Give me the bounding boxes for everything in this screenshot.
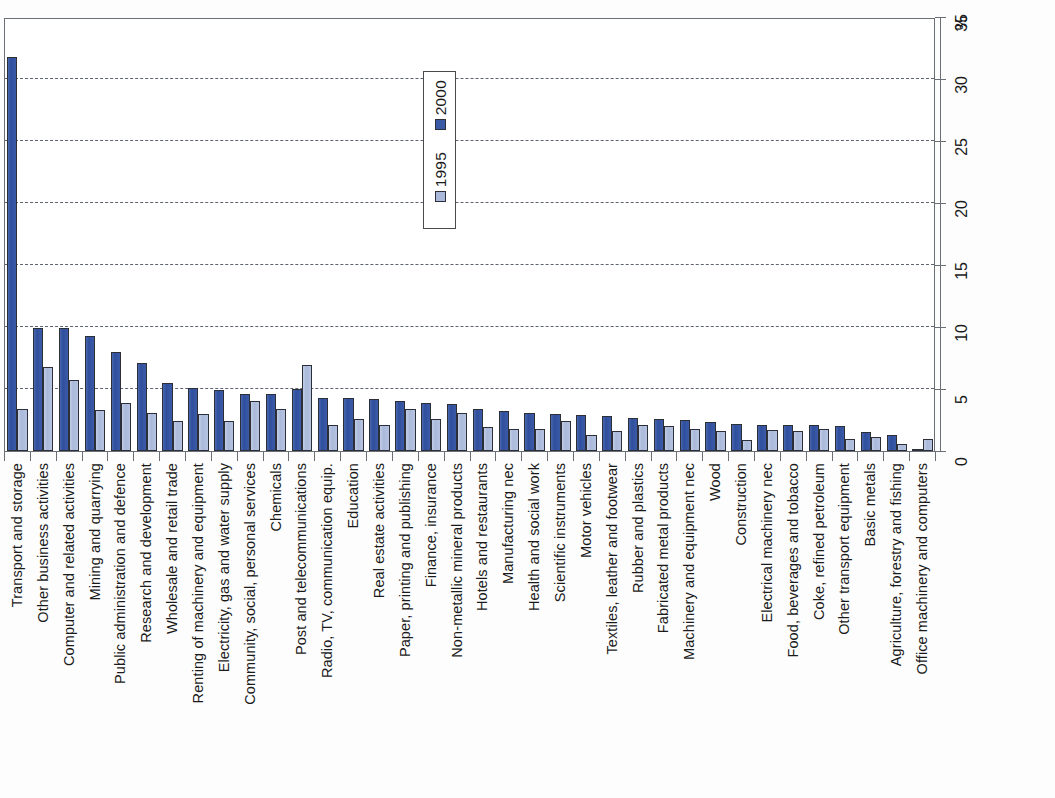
bar-1995 bbox=[95, 410, 105, 451]
bar-1995 bbox=[690, 429, 700, 451]
category-tick bbox=[107, 452, 108, 461]
bar-2000 bbox=[59, 328, 69, 451]
category-tick bbox=[935, 452, 936, 461]
bar-group bbox=[576, 19, 596, 451]
category-tick bbox=[728, 452, 729, 461]
category-label: Mining and quarrying bbox=[88, 463, 103, 600]
category-tick bbox=[806, 452, 807, 461]
bar-group bbox=[550, 19, 570, 451]
chart-page: 2000 1995 05101520253035 % Transport and… bbox=[0, 0, 1055, 798]
category-label: Finance, insurance bbox=[424, 463, 439, 587]
bar-2000 bbox=[499, 411, 509, 451]
bar-1995 bbox=[819, 429, 829, 451]
bar-group bbox=[473, 19, 493, 451]
category-label: Scientific instruments bbox=[553, 463, 568, 602]
category-tick bbox=[495, 452, 496, 461]
category-label: Transport and storage bbox=[10, 463, 25, 607]
value-tick-0 bbox=[935, 451, 946, 452]
category-tick bbox=[263, 452, 264, 461]
value-tick-label: 15 bbox=[954, 262, 970, 280]
category-tick bbox=[211, 452, 212, 461]
category-label: Machinery and equipment nec bbox=[682, 463, 697, 660]
category-label: Wood bbox=[708, 463, 723, 501]
bar-group bbox=[705, 19, 725, 451]
bar-1995 bbox=[586, 435, 596, 451]
category-label: Motor vehicles bbox=[579, 463, 594, 558]
bar-1995 bbox=[638, 425, 648, 451]
bar-1995 bbox=[767, 430, 777, 451]
category-label: Post and telecommunications bbox=[294, 463, 309, 655]
bar-2000 bbox=[343, 398, 353, 451]
bar-group bbox=[7, 19, 27, 451]
bar-2000 bbox=[473, 409, 483, 451]
bar-1995 bbox=[69, 380, 79, 451]
category-tick bbox=[185, 452, 186, 461]
category-label: Basic metals bbox=[863, 463, 878, 546]
bar-group bbox=[912, 19, 932, 451]
category-axis-labels: Transport and storageOther business acti… bbox=[4, 463, 935, 793]
bar-2000 bbox=[111, 352, 121, 451]
bar-group bbox=[369, 19, 389, 451]
value-axis-unit-label: % bbox=[954, 16, 970, 30]
bar-group bbox=[266, 19, 286, 451]
bar-1995 bbox=[845, 439, 855, 451]
value-axis: 05101520253035 bbox=[940, 18, 941, 452]
category-label: Fabricated metal products bbox=[656, 463, 671, 633]
bar-2000 bbox=[628, 418, 638, 451]
bar-1995 bbox=[147, 413, 157, 451]
bar-1995 bbox=[121, 403, 131, 451]
category-tick bbox=[857, 452, 858, 461]
category-tick bbox=[702, 452, 703, 461]
category-tick bbox=[444, 452, 445, 461]
category-tick bbox=[418, 452, 419, 461]
bar-1995 bbox=[716, 431, 726, 451]
category-tick bbox=[754, 452, 755, 461]
bar-2000 bbox=[266, 394, 276, 451]
category-tick bbox=[30, 452, 31, 461]
bar-2000 bbox=[887, 435, 897, 451]
category-label: Textiles, leather and footwear bbox=[605, 463, 620, 655]
bar-1995 bbox=[664, 426, 674, 451]
value-tick-30 bbox=[935, 79, 946, 80]
category-label: Hotels and restaurants bbox=[475, 463, 490, 611]
category-tick bbox=[237, 452, 238, 461]
category-tick bbox=[547, 452, 548, 461]
category-tick bbox=[909, 452, 910, 461]
category-label: Community, social, personal services bbox=[243, 463, 258, 705]
bar-2000 bbox=[680, 420, 690, 451]
bar-2000 bbox=[7, 57, 17, 451]
category-label: Research and development bbox=[139, 463, 154, 643]
legend-swatch-1995 bbox=[435, 191, 446, 202]
category-label: Agriculture, forestry and fishing bbox=[889, 463, 904, 666]
legend-entry-1995: 1995 bbox=[424, 152, 457, 202]
bar-1995 bbox=[612, 431, 622, 451]
legend-label-2000: 2000 bbox=[433, 80, 449, 115]
bar-group bbox=[188, 19, 208, 451]
bar-group bbox=[861, 19, 881, 451]
value-tick-20 bbox=[935, 203, 946, 204]
category-label: Manufacturing nec bbox=[501, 463, 516, 584]
bar-1995 bbox=[224, 421, 234, 451]
value-tick-label: 0 bbox=[954, 457, 970, 466]
bar-group bbox=[240, 19, 260, 451]
category-tick bbox=[676, 452, 677, 461]
category-tick bbox=[625, 452, 626, 461]
bar-1995 bbox=[742, 440, 752, 451]
value-tick-label: 10 bbox=[954, 324, 970, 342]
category-label: Office machinery and computers bbox=[915, 463, 930, 674]
category-tick bbox=[521, 452, 522, 461]
category-tick bbox=[340, 452, 341, 461]
category-tick bbox=[392, 452, 393, 461]
bar-2000 bbox=[421, 403, 431, 451]
bar-group bbox=[395, 19, 415, 451]
bar-2000 bbox=[654, 419, 664, 451]
bar-1995 bbox=[328, 425, 338, 451]
bar-group bbox=[111, 19, 131, 451]
bar-1995 bbox=[897, 444, 907, 451]
category-label: Electricity, gas and water supply bbox=[217, 463, 232, 672]
chart-legend: 2000 1995 bbox=[423, 71, 456, 229]
bars-layer bbox=[5, 19, 934, 451]
bar-2000 bbox=[369, 399, 379, 451]
bar-2000 bbox=[240, 394, 250, 451]
bar-1995 bbox=[198, 414, 208, 451]
